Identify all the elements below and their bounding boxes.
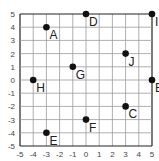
point-label: C — [129, 107, 138, 121]
y-tick-label: -1 — [8, 89, 16, 98]
point-label: F — [89, 121, 96, 135]
grid-lines — [20, 14, 152, 146]
point-label: D — [89, 15, 98, 29]
point-a: A — [43, 24, 57, 42]
y-tick-label: 5 — [11, 10, 16, 19]
point-b: B — [149, 77, 159, 95]
point-g: G — [70, 64, 86, 82]
x-tick-label: 0 — [84, 150, 89, 159]
point-label: J — [129, 55, 135, 69]
point-label: I — [155, 15, 158, 29]
point-label: B — [155, 81, 159, 95]
y-tick-label: 0 — [11, 76, 16, 85]
x-tick-label: -2 — [56, 150, 64, 159]
x-tick-label: 4 — [137, 150, 142, 159]
y-tick-label: 1 — [11, 63, 16, 72]
point-j: J — [122, 50, 134, 68]
point-e: E — [43, 130, 57, 148]
point-i: I — [149, 11, 159, 29]
y-tick-label: 3 — [11, 36, 16, 45]
y-tick-label: -2 — [8, 102, 16, 111]
y-tick-label: 4 — [11, 23, 16, 32]
data-points: ABCDEFGHIJ — [30, 11, 159, 148]
x-tick-label: -1 — [69, 150, 77, 159]
point-f: F — [83, 116, 97, 134]
y-tick-label: 2 — [11, 50, 16, 59]
y-tick-label: -4 — [8, 129, 16, 138]
y-tick-label: -5 — [8, 142, 16, 151]
coordinate-grid-chart: -5-4-3-2-1012345543210-1-2-3-4-5 ABCDEFG… — [0, 0, 159, 161]
point-h: H — [30, 77, 45, 95]
x-tick-label: -5 — [16, 150, 24, 159]
point-label: G — [76, 68, 85, 82]
x-tick-label: -3 — [43, 150, 51, 159]
axis-ticks: -5-4-3-2-1012345543210-1-2-3-4-5 — [8, 10, 155, 159]
x-tick-label: -4 — [30, 150, 38, 159]
point-c: C — [122, 103, 137, 121]
x-tick-label: 3 — [123, 150, 128, 159]
x-tick-label: 5 — [150, 150, 155, 159]
point-label: E — [49, 134, 57, 148]
y-tick-label: -3 — [8, 116, 16, 125]
point-label: A — [49, 28, 57, 42]
point-label: H — [36, 81, 45, 95]
x-tick-label: 1 — [97, 150, 102, 159]
x-tick-label: 2 — [110, 150, 115, 159]
